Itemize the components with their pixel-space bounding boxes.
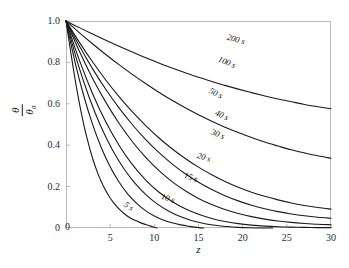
x-axis-tick-label: 20 xyxy=(228,232,258,243)
y-axis-tick-label: 0 xyxy=(26,222,60,233)
y-axis-tick-label: 0.6 xyxy=(26,98,60,109)
chart-figure: θ θ0 z 05101520253000.20.40.60.81.05 s10… xyxy=(0,0,349,268)
curve-10-s xyxy=(66,21,204,228)
curve-200-s xyxy=(66,21,331,109)
y-axis-tick-label: 0.2 xyxy=(26,181,60,192)
x-axis-tick-label: 15 xyxy=(184,232,214,243)
x-axis-label: z xyxy=(66,243,331,255)
y-axis-label: θ θ0 xyxy=(10,80,38,140)
curve-20-s xyxy=(66,21,331,228)
x-axis-tick-label: 5 xyxy=(95,232,125,243)
y-axis-tick-label: 0.8 xyxy=(26,56,60,67)
curve-40-s xyxy=(66,21,331,218)
x-axis-tick-label: 25 xyxy=(272,232,302,243)
x-axis-tick-label: 30 xyxy=(316,232,346,243)
y-axis-tick-label: 0.4 xyxy=(26,139,60,150)
y-axis-numerator: θ xyxy=(10,104,23,117)
y-axis-tick-label: 1.0 xyxy=(26,15,60,26)
x-axis-tick-label: 10 xyxy=(139,232,169,243)
